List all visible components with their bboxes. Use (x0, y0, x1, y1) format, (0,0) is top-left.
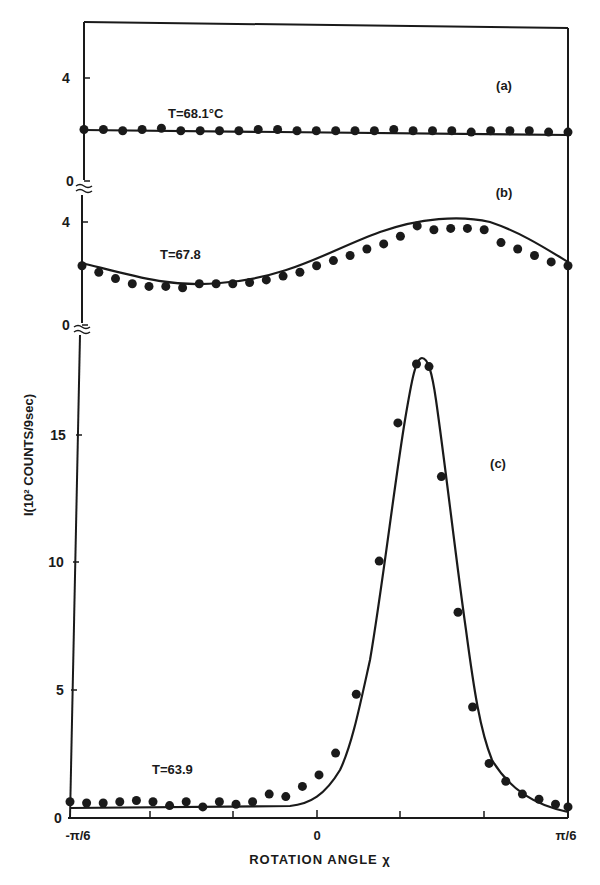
panel-a-point (176, 126, 185, 135)
panel-c-point (425, 362, 434, 371)
panel-a-point (293, 126, 302, 135)
panel-c-point (182, 797, 191, 806)
panel-a-point (99, 125, 108, 134)
panel-b-point (480, 225, 489, 234)
panel-b-point (295, 268, 304, 277)
panel-c-tick-10: 10 (48, 554, 64, 570)
panel-b-point (413, 221, 422, 230)
panel-c-point (82, 799, 91, 808)
panel-c-point (518, 790, 527, 799)
panel-c-point (315, 770, 324, 779)
panel-b-point (362, 245, 371, 254)
panel-b-point (497, 238, 506, 247)
panel-b-point (547, 257, 556, 266)
panel-b-point (145, 282, 154, 291)
panel-b-point (195, 279, 204, 288)
panel-c-point (99, 799, 108, 808)
panel-b-point (245, 278, 254, 287)
panel-b-point (346, 251, 355, 260)
panel-a-point (370, 126, 379, 135)
panel-a-point (118, 126, 127, 135)
panel-b-point (446, 224, 455, 233)
panel-c-point (352, 690, 361, 699)
x-tick-neg-pi-6: -π/6 (65, 828, 90, 843)
panel-a-point (331, 126, 340, 135)
panel-c-curve (70, 358, 568, 812)
panel-a-point (138, 125, 147, 134)
panel-c-point (535, 795, 544, 804)
panel-b-point (379, 239, 388, 248)
panel-a-annotation: T=68.1°C (168, 106, 224, 121)
panel-c-point (248, 797, 257, 806)
panel-c-point (298, 782, 307, 791)
panel-a-tick-0: 0 (66, 173, 74, 189)
panel-a-point (525, 126, 534, 135)
panel-c-annotation: T=63.9 (152, 762, 193, 777)
panel-b-annotation: T=67.8 (160, 247, 201, 262)
panel-c-point (551, 800, 560, 809)
panel-b-point (564, 261, 573, 270)
panel-c-point (149, 797, 158, 806)
panel-b-point (178, 283, 187, 292)
panel-a-point (447, 126, 456, 135)
panel-a-point (234, 126, 243, 135)
panel-b-point (463, 224, 472, 233)
x-ticks (150, 810, 484, 818)
panel-a-point (157, 124, 166, 133)
x-tick-0: 0 (313, 828, 320, 843)
panel-a-point (196, 126, 205, 135)
panel-c-point (165, 801, 174, 810)
panel-b-label: (b) (496, 185, 513, 200)
panel-b-point (329, 256, 338, 265)
panel-c-point (331, 749, 340, 758)
panel-b-point (279, 272, 288, 281)
panel-c-point (281, 792, 290, 801)
panel-a-point (312, 126, 321, 135)
panel-b-tick-4: 4 (62, 214, 70, 230)
panel-a-point (254, 125, 263, 134)
panel-c-point (564, 802, 573, 811)
panel-b-point (111, 274, 120, 283)
panel-b-point (312, 261, 321, 270)
panel-a-point (409, 126, 418, 135)
y-axis-label: I(10² COUNTS/9sec) (21, 394, 36, 516)
panel-a-point (467, 128, 476, 137)
panel-c-point (375, 557, 384, 566)
x-axis-label: ROTATION ANGLE χ (249, 852, 391, 867)
panel-c-point (232, 800, 241, 809)
panel-b-point (262, 275, 271, 284)
panel-a-point (505, 126, 514, 135)
panel-b-point (78, 261, 87, 270)
panel-c-point (454, 608, 463, 617)
panel-b-point (530, 251, 539, 260)
panel-a-point (486, 126, 495, 135)
panel-a-tick-4: 4 (62, 70, 70, 86)
panel-c-point (215, 797, 224, 806)
panel-c-point (132, 796, 141, 805)
panel-b-point (228, 279, 237, 288)
chart: 4 0 4 0 15 10 5 0 -π/6 0 π/6 ROTATION AN… (0, 0, 600, 885)
panel-a-point (564, 128, 573, 137)
panel-c-point (468, 703, 477, 712)
plot-frame (68, 22, 568, 818)
panel-a-label: (a) (496, 78, 512, 93)
panel-c-point (393, 418, 402, 427)
panel-b-point (396, 232, 405, 241)
panel-c-point (66, 797, 75, 806)
panel-a-curve (84, 130, 568, 135)
panel-c-tick-0: 0 (54, 810, 62, 826)
panel-c-point (485, 759, 494, 768)
panel-b-point (513, 245, 522, 254)
panel-c-point (501, 777, 510, 786)
panel-b-point (161, 282, 170, 291)
panel-a-point (273, 125, 282, 134)
panel-c-point (412, 360, 421, 369)
panel-c-label: (c) (490, 456, 506, 471)
panel-c-point (115, 797, 124, 806)
panel-c-point (265, 790, 274, 799)
panel-a-point (80, 125, 89, 134)
panel-b-curve (82, 218, 568, 284)
panel-a-point (428, 126, 437, 135)
panel-b-tick-0: 0 (62, 317, 70, 333)
panel-a-point (389, 125, 398, 134)
